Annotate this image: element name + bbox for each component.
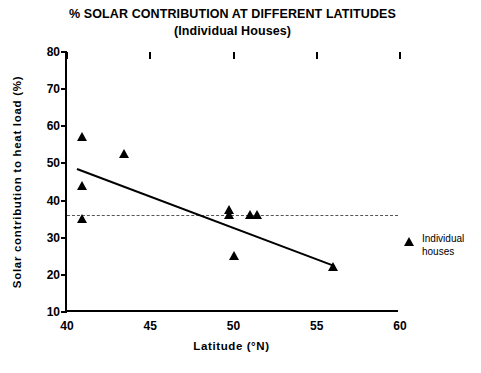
- data-point-marker: [77, 214, 87, 223]
- y-axis-title: Solar contribution to heat load (%): [9, 52, 25, 312]
- data-point-marker: [252, 210, 262, 219]
- chart-legend: Individual houses: [404, 233, 464, 258]
- y-axis-tick-label: 70: [47, 82, 60, 96]
- data-point-marker: [77, 181, 87, 190]
- data-point-marker: [119, 149, 129, 158]
- regression-trend-line: [67, 52, 400, 312]
- y-axis-tick: [61, 274, 67, 276]
- legend-item-label: Individual houses: [422, 233, 464, 258]
- legend-label-line-1: Individual: [422, 233, 464, 246]
- data-point-marker: [77, 132, 87, 141]
- x-axis-tick-label: 60: [393, 319, 406, 333]
- y-axis-tick: [61, 125, 67, 127]
- x-axis-tick-label: 40: [60, 319, 73, 333]
- x-axis-tick-label: 45: [144, 319, 157, 333]
- plot-area: 80706050403020104045505560: [65, 52, 398, 312]
- x-axis-tick: [399, 52, 401, 59]
- data-point-marker: [328, 262, 338, 271]
- triangle-icon: [404, 237, 414, 246]
- y-axis-tick: [61, 237, 67, 239]
- y-axis-title-text: Solar contribution to heat load (%): [11, 76, 23, 288]
- y-axis-tick-label: 60: [47, 119, 60, 133]
- y-axis-tick: [61, 88, 67, 90]
- x-axis-tick: [233, 52, 235, 59]
- chart-subtitle: (Individual Houses): [0, 23, 465, 40]
- y-axis-tick: [61, 162, 67, 164]
- x-axis-tick-label: 50: [227, 319, 240, 333]
- data-point-marker: [229, 251, 239, 260]
- legend-label-line-2: houses: [422, 246, 464, 259]
- x-axis-title: Latitude (°N): [65, 340, 398, 352]
- plot-inner: [67, 52, 398, 310]
- x-axis-tick: [149, 52, 151, 59]
- x-axis-tick-label: 55: [310, 319, 323, 333]
- data-point-marker: [224, 210, 234, 219]
- page-title: % SOLAR CONTRIBUTION AT DIFFERENT LATITU…: [0, 6, 465, 23]
- chart-title-block: % SOLAR CONTRIBUTION AT DIFFERENT LATITU…: [0, 6, 465, 40]
- y-axis-tick-label: 20: [47, 268, 60, 282]
- y-axis-tick: [61, 311, 67, 313]
- y-axis-tick-label: 30: [47, 231, 60, 245]
- y-axis-tick-label: 40: [47, 194, 60, 208]
- y-axis-tick-label: 10: [47, 305, 60, 319]
- y-axis-tick-label: 50: [47, 156, 60, 170]
- x-axis-tick: [316, 52, 318, 59]
- y-axis-tick-label: 80: [47, 45, 60, 59]
- x-axis-tick: [66, 52, 68, 59]
- y-axis-tick: [61, 200, 67, 202]
